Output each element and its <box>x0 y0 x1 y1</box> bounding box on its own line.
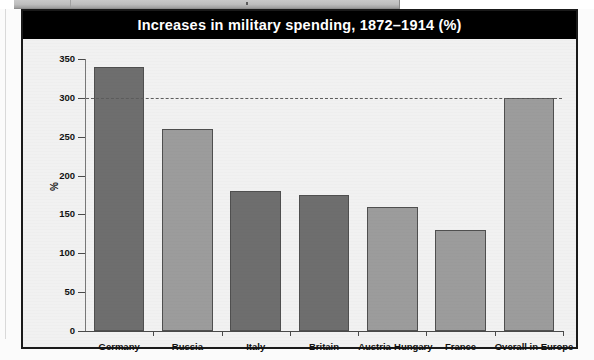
y-tick-label: 100 <box>29 248 75 258</box>
y-tick-mark <box>78 214 85 215</box>
x-tick-mark <box>290 331 291 336</box>
y-tick-label: 350 <box>29 54 75 64</box>
x-tick-mark <box>153 331 154 336</box>
chart-title-bar: Increases in military spending, 1872–191… <box>23 11 576 39</box>
y-axis-line <box>85 59 86 331</box>
page-left-rule <box>5 9 6 339</box>
x-tick-mark <box>426 331 427 336</box>
y-tick-label: 250 <box>29 132 75 142</box>
bar-germany <box>94 67 145 331</box>
x-tick-label: Russia <box>153 342 221 352</box>
x-tick-mark <box>358 331 359 336</box>
x-tick-mark <box>222 331 223 336</box>
bar-britain <box>299 195 350 331</box>
bar-italy <box>230 191 281 331</box>
y-tick-label: 200 <box>29 171 75 181</box>
y-tick-mark <box>78 59 85 60</box>
y-tick-label: 300 <box>29 93 75 103</box>
x-tick-label: France <box>426 342 494 352</box>
y-tick-label: 150 <box>29 209 75 219</box>
y-tick-mark <box>78 331 85 332</box>
artifact-dot <box>246 2 248 5</box>
x-tick-mark <box>563 331 564 336</box>
bar-austria-hungary <box>367 207 418 331</box>
bar-overall-in-europe <box>504 98 555 331</box>
x-tick-label: Germany <box>85 342 153 352</box>
chart-title: Increases in military spending, 1872–191… <box>137 17 461 33</box>
y-tick-mark <box>78 176 85 177</box>
plot-area: % 050100150200250300350GermanyRussiaItal… <box>23 39 576 347</box>
artifact-seam <box>70 0 71 8</box>
bar-france <box>435 230 486 331</box>
bar-russia <box>162 129 213 331</box>
y-tick-label: 0 <box>29 326 75 336</box>
y-tick-mark <box>78 98 85 99</box>
scan-artifact-strip <box>14 0 400 9</box>
x-tick-label: Austria-Hungary <box>358 342 426 352</box>
x-axis-line <box>85 331 563 332</box>
y-tick-mark <box>78 137 85 138</box>
y-tick-mark <box>78 253 85 254</box>
y-tick-mark <box>78 292 85 293</box>
chart-figure: Increases in military spending, 1872–191… <box>21 9 578 349</box>
x-tick-label: Overall in Europe <box>495 342 563 352</box>
x-tick-label: Britain <box>290 342 358 352</box>
reference-line-300 <box>86 98 562 99</box>
x-tick-label: Italy <box>222 342 290 352</box>
y-tick-label: 50 <box>29 287 75 297</box>
x-tick-mark <box>495 331 496 336</box>
